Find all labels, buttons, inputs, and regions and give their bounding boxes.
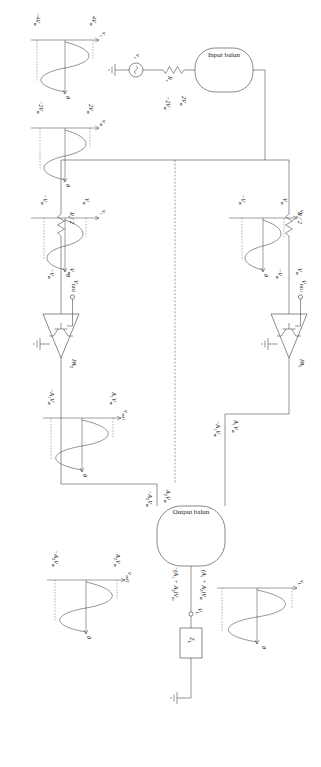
wave-branch-2-amp-top: Vm xyxy=(279,198,288,205)
wave-load-y-label: vL xyxy=(296,580,305,585)
node-negvm-branch2-label: −Vm xyxy=(46,268,55,279)
wave-out-2-amp-bot: −A2Vm xyxy=(50,550,59,567)
wave-branch-1-amp-bot: −Vm xyxy=(39,194,48,205)
node-2vm-label: 2Vm xyxy=(178,96,187,106)
input-balun-label: Input balun xyxy=(198,51,250,105)
wave-source-y-label: vs xyxy=(98,32,107,36)
wave-out-1-x-label: θ xyxy=(81,474,87,477)
wave-balun-input-amp-top: 2Vm xyxy=(85,104,94,114)
node-a2vm-label: A2Vm xyxy=(162,490,171,503)
pa2-label: PA2 xyxy=(68,359,77,368)
wave-out-1-y-label: vout1 xyxy=(120,410,129,421)
wave-branch-2-amp-bot: −Vm xyxy=(237,194,246,205)
wave-branch-2-y-label: v2 xyxy=(296,210,305,215)
wave-out-2-amp-top: A2Vm xyxy=(112,554,121,567)
vl-label: VL xyxy=(194,608,203,614)
node-a1vm-label: A1Vm xyxy=(230,420,239,433)
node-nega1vm-label: −A1Vm xyxy=(212,420,221,437)
vdd1-label: VDD1 xyxy=(298,280,307,292)
node-load-negsum-label: −(A1 + A2)Vm xyxy=(170,566,179,601)
node-negvm-branch1-label: −Vm xyxy=(274,268,283,279)
vdd2-label: VDD2 xyxy=(70,280,79,292)
pa1-label: PA1 xyxy=(296,359,305,368)
schematic-sheet: Input balun Output balun PA1 PA2 VDD1 VD… xyxy=(11,14,311,754)
wave-source-amp-bot: −4Vm xyxy=(32,12,41,26)
wave-source-x-label: θ xyxy=(64,96,70,99)
wave-branch-1-amp-top: Vm xyxy=(81,198,90,205)
rs-half-bottom-label: Rs/ 2 xyxy=(66,212,75,224)
zl-label: ZL xyxy=(186,637,195,643)
wave-out-1-amp-top: A1Vm xyxy=(108,392,117,405)
source-label: vs xyxy=(132,54,141,58)
wave-source-amp-top: 4Vm xyxy=(88,16,97,26)
rs-label: Rs xyxy=(164,76,173,82)
wave-balun-input-x-label: θ xyxy=(64,184,70,187)
wave-load-x-label: θ xyxy=(260,646,266,649)
node-load-sum-label: (A1 + A2)Vm xyxy=(198,570,207,600)
schematic-canvas: Input balun Output balun PA1 PA2 VDD1 VD… xyxy=(0,0,321,767)
wave-out-2-y-label: vout2 xyxy=(124,572,133,583)
output-balun-label: Output balun xyxy=(161,508,221,568)
wave-balun-input-y-label: vin xyxy=(98,120,107,126)
wave-out-2-x-label: θ xyxy=(85,636,91,639)
wave-balun-input-amp-bot: −2Vm xyxy=(35,100,44,114)
wave-branch-1-x-label: θ xyxy=(64,274,70,277)
schematic-wires xyxy=(11,14,311,754)
node-vm-branch1-label: Vm xyxy=(294,268,303,275)
wave-branch-1-y-label: v1 xyxy=(98,210,107,215)
wave-out-1-amp-bot: −A1Vm xyxy=(46,388,55,405)
node-neg2vm-label: −2Vm xyxy=(162,96,171,110)
node-nega2vm-label: −A2Vm xyxy=(144,490,153,507)
wave-branch-2-x-label: θ xyxy=(262,274,268,277)
